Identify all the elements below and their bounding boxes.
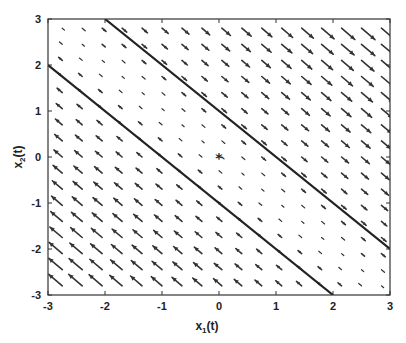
- y-tick-label: -3: [31, 289, 41, 301]
- x-tick-label: 3: [387, 300, 393, 312]
- y-tick-label: -2: [31, 243, 41, 255]
- y-tick-label: 3: [35, 13, 41, 25]
- y-tick-label: -1: [31, 197, 41, 209]
- x-axis-label: x1(t): [195, 319, 218, 335]
- x-tick-label: 1: [273, 300, 279, 312]
- x-tick-label: -3: [43, 300, 53, 312]
- x-tick-label: 2: [330, 300, 336, 312]
- x-tick-label: -1: [157, 300, 167, 312]
- markers: *: [215, 150, 223, 166]
- y-axis-label: x2(t): [11, 145, 27, 168]
- y-tick-label: 0: [35, 151, 41, 163]
- y-tick-label: 2: [35, 59, 41, 71]
- equilibrium-point-marker: *: [215, 150, 223, 166]
- quiver-plot: * -3-2-10123 -3-2-10123 x1(t) x2(t): [0, 0, 406, 343]
- y-tick-label: 1: [35, 105, 41, 117]
- x-tick-label: -2: [100, 300, 110, 312]
- x-tick-label: 0: [216, 300, 222, 312]
